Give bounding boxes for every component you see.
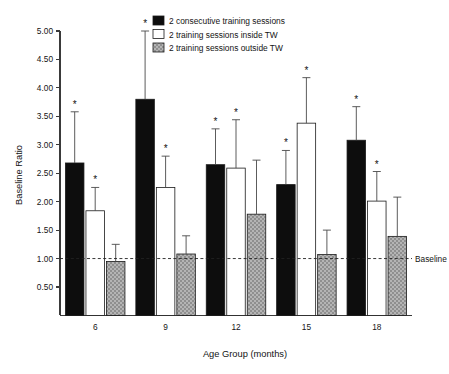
x-tick-label: 9 bbox=[163, 322, 168, 332]
bar bbox=[136, 99, 155, 315]
x-tick-label: 6 bbox=[93, 322, 98, 332]
legend-swatch bbox=[153, 43, 164, 52]
y-tick-label: 4.50 bbox=[37, 54, 54, 64]
y-tick-label: 4.00 bbox=[37, 83, 54, 93]
bar bbox=[247, 214, 266, 315]
bar bbox=[388, 236, 407, 315]
bar bbox=[227, 168, 246, 315]
y-axis: 0.501.001.502.002.503.003.504.004.505.00 bbox=[37, 26, 60, 315]
legend-label: 2 training sessions inside TW bbox=[169, 30, 278, 40]
y-axis-title: Baseline Ratio bbox=[14, 145, 24, 205]
significance-star: * bbox=[214, 116, 218, 127]
y-tick-label: 0.50 bbox=[37, 282, 54, 292]
y-tick-label: 1.50 bbox=[37, 225, 54, 235]
significance-star: * bbox=[375, 159, 379, 170]
bar bbox=[347, 140, 366, 315]
x-tick-label: 12 bbox=[231, 322, 241, 332]
legend-swatch bbox=[153, 30, 164, 39]
chart-legend: 2 consecutive training sessions2 trainin… bbox=[153, 16, 285, 53]
legend-swatch bbox=[153, 16, 164, 25]
bars-layer: ********** bbox=[65, 18, 406, 315]
significance-star: * bbox=[354, 94, 358, 105]
y-tick-label: 3.00 bbox=[37, 140, 54, 150]
significance-star: * bbox=[284, 137, 288, 148]
bar-chart-svg: 0.501.001.502.002.503.003.504.004.505.00… bbox=[0, 0, 449, 374]
bar bbox=[206, 165, 225, 316]
legend-label: 2 training sessions outside TW bbox=[169, 43, 283, 53]
significance-star: * bbox=[164, 143, 168, 154]
x-axis: 69121518 bbox=[60, 315, 412, 332]
significance-star: * bbox=[143, 18, 147, 29]
y-tick-label: 2.50 bbox=[37, 168, 54, 178]
significance-star: * bbox=[93, 174, 97, 185]
bar bbox=[106, 261, 125, 315]
x-tick-label: 15 bbox=[302, 322, 312, 332]
legend-label: 2 consecutive training sessions bbox=[169, 16, 285, 26]
bar bbox=[277, 185, 296, 316]
baseline-label: Baseline bbox=[415, 254, 447, 264]
significance-star: * bbox=[304, 65, 308, 76]
y-tick-label: 3.50 bbox=[37, 111, 54, 121]
significance-star: * bbox=[234, 107, 238, 118]
x-tick-label: 18 bbox=[372, 322, 382, 332]
bar bbox=[86, 211, 105, 316]
bar bbox=[297, 123, 316, 315]
x-axis-title: Age Group (months) bbox=[203, 349, 287, 359]
bar bbox=[156, 187, 175, 315]
bar bbox=[65, 163, 84, 315]
bar bbox=[318, 255, 337, 316]
chart-figure: 0.501.001.502.002.503.003.504.004.505.00… bbox=[0, 0, 449, 374]
y-tick-label: 1.00 bbox=[37, 254, 54, 264]
y-tick-label: 2.00 bbox=[37, 197, 54, 207]
bar bbox=[177, 254, 196, 315]
significance-star: * bbox=[73, 99, 77, 110]
y-tick-label: 5.00 bbox=[37, 26, 54, 36]
